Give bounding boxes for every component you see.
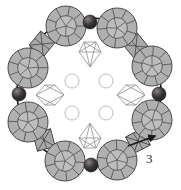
inner-octahedron-1	[117, 85, 145, 105]
inner-bipyramid-0	[79, 42, 101, 67]
polyhedral-cluster-7	[8, 48, 48, 88]
dark-sphere-0	[83, 15, 97, 29]
polyhedral-cluster-4	[97, 140, 137, 180]
structure-figure: 3	[0, 0, 181, 190]
inner-circle-1	[99, 74, 113, 88]
dark-sphere-1	[152, 87, 166, 101]
polyhedral-cluster-3	[132, 100, 172, 140]
dark-sphere-3	[12, 87, 26, 101]
inner-circle-group	[65, 74, 113, 120]
polyhedral-cluster-5	[45, 141, 85, 181]
inner-bipyramid-group	[79, 42, 101, 148]
polyhedral-cluster-6	[8, 102, 48, 142]
polyhedral-cluster-1	[97, 8, 137, 48]
inner-octahedron-0	[36, 85, 64, 105]
dark-sphere-2	[84, 158, 98, 172]
inner-bipyramid-1	[79, 123, 101, 148]
figure-number-label: 3	[146, 152, 153, 165]
inner-circle-0	[65, 74, 79, 88]
inner-circle-3	[99, 106, 113, 120]
polyhedral-cluster-0	[46, 6, 86, 46]
polyhedral-cluster-2	[132, 46, 172, 86]
structure-diagram-canvas	[0, 0, 181, 190]
inner-octahedron-group	[36, 85, 145, 105]
inner-circle-2	[65, 106, 79, 120]
